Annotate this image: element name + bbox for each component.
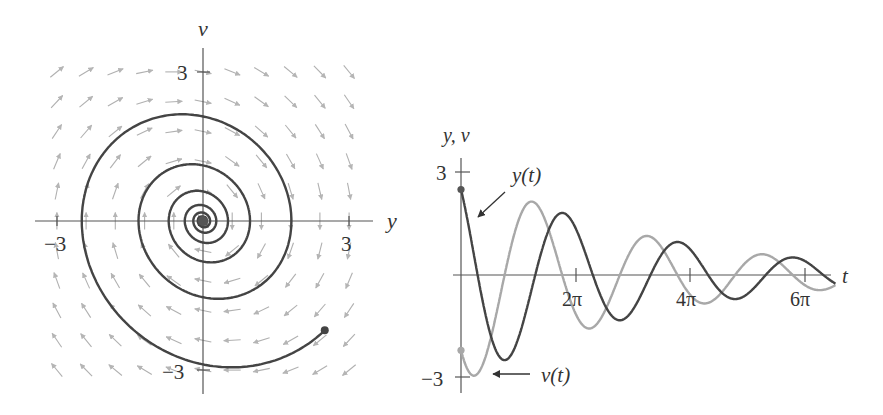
y-annotation-label: y(t) [510,163,541,187]
y-axis-label: y [385,208,397,233]
direction-field-arrow-icon [318,243,322,260]
direction-field-arrow-icon [254,307,269,314]
v-annotation-label: v(t) [541,363,570,387]
direction-field-arrow-icon [167,186,180,197]
direction-field-arrow-icon [313,335,326,346]
direction-field-arrow-icon [137,366,152,375]
direction-field-arrow-icon [53,303,61,318]
direction-field-arrow-icon [318,183,322,200]
direction-field-arrow-icon [139,274,150,287]
v-initial-marker [457,347,464,354]
direction-field-arrow-icon [138,305,151,316]
direction-field-arrow-icon [345,124,353,139]
direction-field-arrow-icon [225,156,239,166]
direction-field-arrow-icon [257,243,265,258]
direction-field-arrow-icon [316,273,324,288]
direction-field-arrow-icon [254,68,269,77]
direction-field-arrow-icon [51,96,63,108]
direction-field-arrow-icon [166,337,181,344]
direction-field-arrow-icon [82,303,91,317]
direction-field-arrow-icon [108,98,123,106]
direction-field-arrow-icon [224,340,241,341]
direction-field-arrow-icon [344,65,355,78]
direction-field-arrow-icon [346,153,352,169]
y-annotation-arrow [478,192,505,217]
direction-field-arrow-icon [136,70,153,73]
direction-field-arrow-icon [54,154,61,170]
yv-axis-label: y, v [441,124,470,147]
direction-field-arrow-icon [284,305,297,316]
yv-tick-label-pos3: 3 [436,161,447,185]
direction-field-arrow-icon [108,69,124,75]
direction-field-arrow-icon [165,130,182,132]
direction-field-arrow-icon [348,183,351,200]
direction-field-arrow-icon [81,334,92,347]
direction-field-arrow-icon [137,128,152,135]
t-tick-label-4pi: 4π [676,288,696,310]
direction-field-arrow-icon [55,183,58,200]
direction-field-arrow-icon [138,156,151,167]
direction-field-arrow-icon [82,154,90,169]
direction-field-arrow-icon [166,159,182,164]
direction-field-arrow-icon [346,273,353,289]
direction-field-arrow-icon [111,273,120,288]
initial-point-marker [321,326,329,334]
direction-field-arrow-icon [283,367,299,373]
v-of-t-curve [461,202,836,376]
direction-field-arrow-icon [314,66,326,78]
direction-field-arrow-icon [316,154,323,170]
direction-field-arrow-icon [80,364,92,376]
direction-field-arrow-icon [283,336,298,344]
direction-field-arrow-icon [110,155,120,169]
direction-field-arrow-icon [256,155,267,168]
direction-field-arrow-icon [343,334,355,346]
y-tick-label-neg3: −3 [44,232,66,256]
direction-field-arrow-icon [113,243,118,259]
direction-field-arrow-icon [255,126,268,137]
direction-field-arrow-icon [166,306,181,314]
y-initial-marker [457,186,464,193]
direction-field-arrow-icon [52,364,63,377]
direction-field-arrow-icon [258,183,265,199]
direction-field-arrow-icon [113,183,119,199]
v-tick-label-neg3: −3 [162,360,184,384]
direction-field-arrow-icon [255,97,269,107]
v-tick-label-pos3: 3 [177,61,188,85]
equilibrium-point [198,216,208,226]
v-axis-label: v [198,16,208,41]
t-tick-label-2pi: 2π [562,288,582,310]
figure: v y −3 3 3 −3 y, v t 3 −3 2π 4π 6π y(t) … [0,0,883,415]
t-tick-label-6pi: 6π [790,288,810,310]
phase-plane-chart: v y −3 3 3 −3 [35,16,397,394]
direction-field-arrow-icon [344,303,353,317]
direction-field-arrow-icon [286,274,296,288]
direction-field-arrow-icon [83,273,90,289]
yv-tick-label-neg3: −3 [421,367,443,391]
y-tick-label-pos3: 3 [341,232,352,256]
direction-field-arrow-icon [109,334,121,346]
direction-field-arrow-icon [344,95,354,109]
direction-field-arrow-icon [286,154,295,169]
direction-field-arrow-icon [253,338,269,343]
time-series-chart: y, v t 3 −3 2π 4π 6π y(t) v(t) [421,124,849,393]
t-axis-label: t [842,264,849,288]
direction-field-arrow-icon [225,98,240,105]
direction-field-arrow-icon [165,101,182,102]
direction-field-arrow-icon [314,304,325,317]
direction-field-arrow-icon [79,68,94,77]
direction-field-arrow-icon [224,278,240,283]
direction-field-arrow-icon [138,335,152,345]
direction-field-arrow-icon [313,366,328,375]
direction-field-arrow-icon [52,125,61,139]
direction-field-arrow-icon [285,125,296,138]
direction-field-arrow-icon [52,333,62,347]
direction-field-arrow-icon [54,273,60,289]
direction-field-arrow-icon [224,69,240,75]
direction-field-arrow-icon [343,365,356,376]
direction-field-arrow-icon [224,309,241,311]
direction-field-arrow-icon [284,67,297,78]
direction-field-arrow-icon [315,124,324,138]
direction-field-arrow-icon [136,99,152,104]
direction-field-arrow-icon [50,67,63,78]
direction-field-arrow-icon [285,96,297,108]
